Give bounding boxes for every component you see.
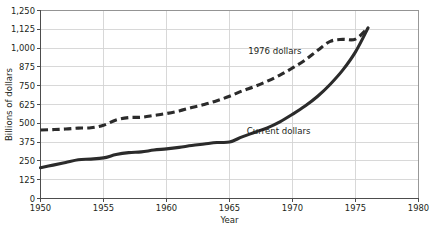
x-tick-label: 1950 (30, 203, 51, 213)
x-tick-label: 1965 (219, 203, 240, 213)
y-axis-title: Billions of dollars (4, 67, 14, 141)
x-tick-label: 1960 (156, 203, 177, 213)
y-tick-label: 625 (19, 100, 35, 110)
y-tick-label: 1,125 (11, 24, 35, 34)
chart-figure: 01252503755006257508751,0001,1251,250 19… (0, 0, 432, 230)
chart-background (0, 0, 432, 230)
y-tick-label: 875 (19, 62, 35, 72)
y-tick-label: 250 (19, 156, 35, 166)
x-tick-label: 1980 (408, 203, 429, 213)
series-label: 1976 dollars (248, 46, 302, 56)
x-tick-label: 1955 (93, 203, 114, 213)
y-tick-label: 750 (19, 81, 35, 91)
x-axis-title: Year (219, 215, 239, 225)
line-chart-canvas: 01252503755006257508751,0001,1251,250 19… (0, 0, 432, 230)
y-tick-label: 1,000 (11, 43, 35, 53)
series-label: Current dollars (247, 126, 311, 136)
y-tick-label: 1,250 (11, 6, 35, 16)
y-tick-label: 375 (19, 137, 35, 147)
x-tick-label: 1975 (345, 203, 366, 213)
y-tick-label: 500 (19, 118, 35, 128)
x-tick-label: 1970 (282, 203, 303, 213)
y-tick-label: 125 (19, 175, 35, 185)
